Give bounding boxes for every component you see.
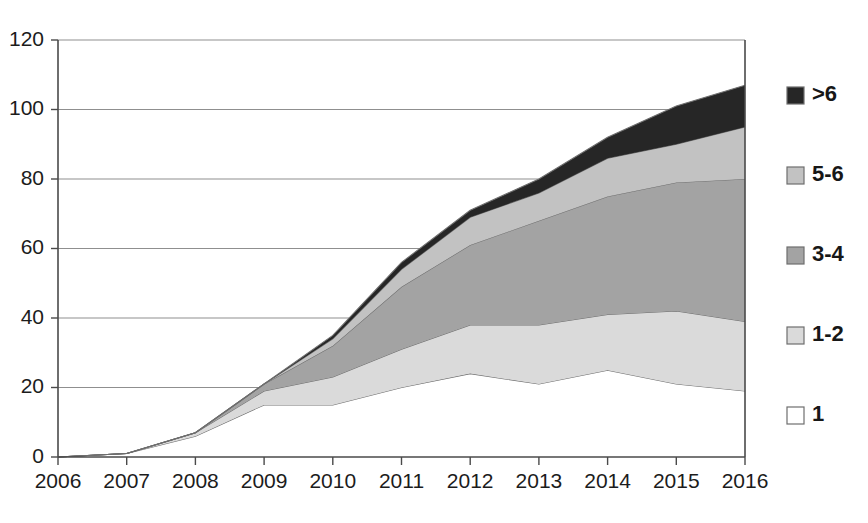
legend-label: >6 bbox=[812, 81, 837, 106]
legend-swatch bbox=[787, 327, 804, 344]
legend-label: 1 bbox=[812, 401, 824, 426]
legend-swatch bbox=[787, 407, 804, 424]
x-tick-label: 2006 bbox=[35, 469, 82, 492]
y-tick-label: 0 bbox=[32, 444, 44, 467]
legend-swatch bbox=[787, 167, 804, 184]
legend-label: 5-6 bbox=[812, 161, 844, 186]
x-tick-label: 2009 bbox=[241, 469, 288, 492]
y-tick-label: 100 bbox=[9, 96, 44, 119]
x-tick-label: 2008 bbox=[172, 469, 219, 492]
y-tick-label: 60 bbox=[21, 235, 44, 258]
legend-swatch bbox=[787, 87, 804, 104]
x-axis-ticks bbox=[58, 457, 745, 465]
x-tick-label: 2007 bbox=[103, 469, 150, 492]
x-tick-label: 2015 bbox=[653, 469, 700, 492]
chart-canvas: 020406080100120 200620072008200920102011… bbox=[0, 0, 868, 523]
x-tick-label: 2014 bbox=[584, 469, 631, 492]
y-tick-label: 40 bbox=[21, 305, 44, 328]
legend-label: 1-2 bbox=[812, 321, 844, 346]
x-tick-label: 2016 bbox=[722, 469, 769, 492]
chart-legend: >65-63-41-21 bbox=[787, 81, 845, 426]
x-tick-label: 2012 bbox=[447, 469, 494, 492]
x-tick-label: 2010 bbox=[309, 469, 356, 492]
legend-label: 3-4 bbox=[812, 241, 845, 266]
y-axis-tick-labels: 020406080100120 bbox=[9, 27, 44, 467]
x-tick-label: 2011 bbox=[379, 469, 424, 492]
legend-swatch bbox=[787, 247, 804, 264]
y-tick-label: 120 bbox=[9, 27, 44, 50]
x-axis-tick-labels: 2006200720082009201020112012201320142015… bbox=[35, 469, 769, 492]
x-tick-label: 2013 bbox=[516, 469, 563, 492]
stacked-area-chart: 020406080100120 200620072008200920102011… bbox=[0, 0, 868, 523]
y-tick-label: 80 bbox=[21, 166, 44, 189]
area-series-group bbox=[58, 85, 745, 457]
y-axis-ticks bbox=[51, 40, 58, 457]
y-tick-label: 20 bbox=[21, 374, 44, 397]
